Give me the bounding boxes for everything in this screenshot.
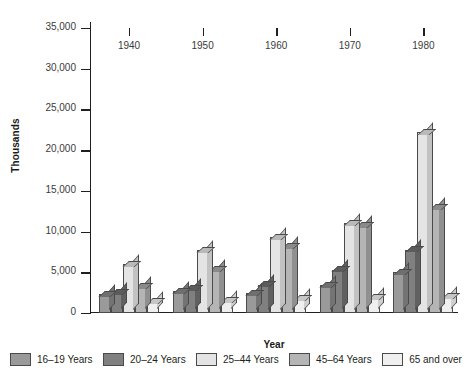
chart-legend: 16–19 Years20–24 Years25–44 Years45–64 Y…	[10, 353, 462, 366]
y-tick-label: 5,000	[51, 265, 76, 276]
legend-item[interactable]: 16–19 Years	[10, 353, 93, 366]
legend-label: 45–64 Years	[316, 354, 372, 365]
y-tick-mark	[81, 191, 90, 192]
y-tick-label: 25,000	[45, 102, 76, 113]
y-tick-mark	[81, 28, 90, 29]
bar	[173, 291, 185, 313]
y-tick-mark	[81, 232, 90, 233]
bar	[246, 293, 258, 313]
x-tick-label: 1950	[191, 40, 213, 51]
legend-swatch-icon	[196, 353, 217, 366]
y-tick-mark	[81, 150, 90, 151]
y-tick-mark	[81, 69, 90, 70]
legend-swatch-icon	[289, 353, 310, 366]
bar	[99, 294, 111, 313]
y-tick-mark	[81, 109, 90, 110]
legend-label: 25–44 Years	[223, 354, 279, 365]
x-tick-mark	[129, 28, 130, 36]
bar-side-face	[354, 214, 360, 310]
y-tick-label: 35,000	[45, 21, 76, 32]
y-tick-mark	[81, 313, 90, 314]
x-axis-title: Year	[90, 339, 458, 350]
y-tick-label: 10,000	[45, 225, 76, 236]
bar-top-face	[418, 129, 436, 135]
x-tick-mark	[423, 28, 424, 36]
y-tick-label: 20,000	[45, 143, 76, 154]
y-tick-label: 0	[70, 306, 76, 317]
legend-item[interactable]: 45–64 Years	[289, 353, 372, 366]
bar-chart-figure: Thousands 05,00010,00015,00020,00025,000…	[0, 0, 468, 378]
x-tick-mark	[350, 28, 351, 36]
y-axis-title: Thousands	[10, 101, 21, 191]
bar-side-face	[427, 123, 433, 310]
bar	[320, 285, 332, 313]
plot-area: 05,00010,00015,00020,00025,00030,00035,0…	[90, 28, 458, 313]
bar	[393, 272, 405, 313]
legend-swatch-icon	[103, 353, 124, 366]
bar-side-face	[330, 276, 336, 310]
y-axis-line	[90, 22, 91, 314]
legend-swatch-icon	[382, 353, 403, 366]
x-tick-mark	[203, 28, 204, 36]
bar-side-face	[439, 198, 445, 310]
bar-top-face	[270, 234, 288, 240]
x-tick-mark	[276, 28, 277, 36]
legend-label: 20–24 Years	[130, 354, 186, 365]
legend-swatch-icon	[10, 353, 31, 366]
legend-item[interactable]: 65 and over	[382, 353, 462, 366]
bar-side-face	[366, 216, 372, 309]
legend-item[interactable]: 25–44 Years	[196, 353, 279, 366]
x-tick-label: 1940	[118, 40, 140, 51]
bar-top-face	[123, 261, 141, 267]
legend-label: 65 and over	[409, 354, 462, 365]
y-tick-mark	[81, 272, 90, 273]
x-tick-label: 1960	[265, 40, 287, 51]
legend-label: 16–19 Years	[37, 354, 93, 365]
x-tick-label: 1980	[412, 40, 434, 51]
legend-item[interactable]: 20–24 Years	[103, 353, 186, 366]
y-tick-label: 30,000	[45, 62, 76, 73]
bar-side-face	[280, 228, 286, 310]
x-tick-label: 1970	[339, 40, 361, 51]
y-tick-label: 15,000	[45, 184, 76, 195]
